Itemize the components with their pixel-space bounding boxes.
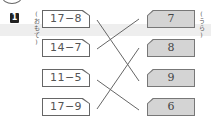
line-14-7-to-7 <box>97 19 139 49</box>
line-11-5-to-6 <box>97 80 139 110</box>
connection-lines <box>0 0 211 123</box>
line-17-9-to-8 <box>97 48 139 109</box>
line-17-8-to-9 <box>97 20 139 81</box>
